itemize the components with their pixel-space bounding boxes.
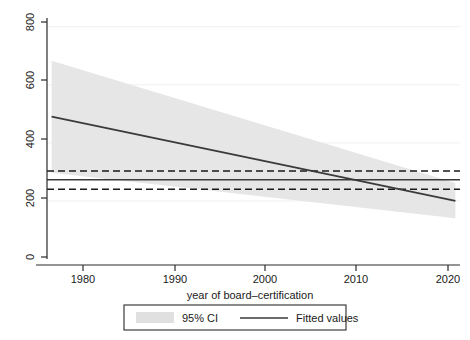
chart-canvas: 800 600 400 200 0 1980 1990 2000 2010 20…: [0, 0, 470, 340]
x-tick-label-1990: 1990: [163, 273, 187, 285]
x-tick-label-2010: 2010: [344, 273, 368, 285]
x-tick-label-2020: 2020: [436, 273, 460, 285]
y-tick-label-800: 800: [24, 13, 36, 31]
chart-figure: 800 600 400 200 0 1980 1990 2000 2010 20…: [0, 0, 470, 340]
y-tick-label-600: 600: [24, 71, 36, 89]
chart-legend: 95% CI Fitted values: [124, 305, 359, 330]
y-tick-label-0: 0: [24, 254, 36, 260]
x-tick-label-2000: 2000: [253, 273, 277, 285]
y-tick-label-200: 200: [24, 189, 36, 207]
y-tick-label-400: 400: [24, 130, 36, 148]
legend-label-fitted: Fitted values: [296, 312, 359, 324]
x-tick-label-1980: 1980: [71, 273, 95, 285]
legend-label-ci: 95% CI: [182, 312, 218, 324]
x-axis-title: year of board–certification: [187, 289, 314, 301]
legend-swatch-ci: [136, 312, 174, 323]
